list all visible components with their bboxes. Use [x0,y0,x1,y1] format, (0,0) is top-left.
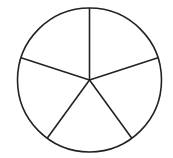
divided-circle-diagram [0,0,173,158]
